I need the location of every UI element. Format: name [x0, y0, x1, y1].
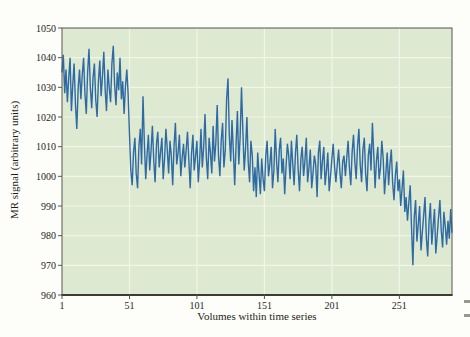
- x-axis-title: Volumes within time series: [62, 310, 452, 322]
- y-tick-label: 1050: [36, 23, 56, 34]
- y-tick-label: 1010: [36, 141, 56, 152]
- y-tick-label: 1020: [36, 112, 56, 123]
- figure-mr-signal-timeseries: 9609709809901000101010201030104010501511…: [0, 0, 470, 337]
- y-tick-label: 1040: [36, 52, 56, 63]
- clipped-caption-fragment: [464, 314, 470, 317]
- y-tick-label: 960: [41, 290, 56, 301]
- y-tick-label: 980: [41, 230, 56, 241]
- y-tick-label: 990: [41, 201, 56, 212]
- y-tick-label: 1000: [36, 171, 56, 182]
- clipped-caption-fragment: [464, 300, 470, 303]
- y-axis-title: MR signal (arbitrary units): [8, 101, 20, 219]
- y-tick-label: 970: [41, 260, 56, 271]
- mr-signal-line-chart: 9609709809901000101010201030104010501511…: [0, 0, 470, 337]
- y-tick-label: 1030: [36, 82, 56, 93]
